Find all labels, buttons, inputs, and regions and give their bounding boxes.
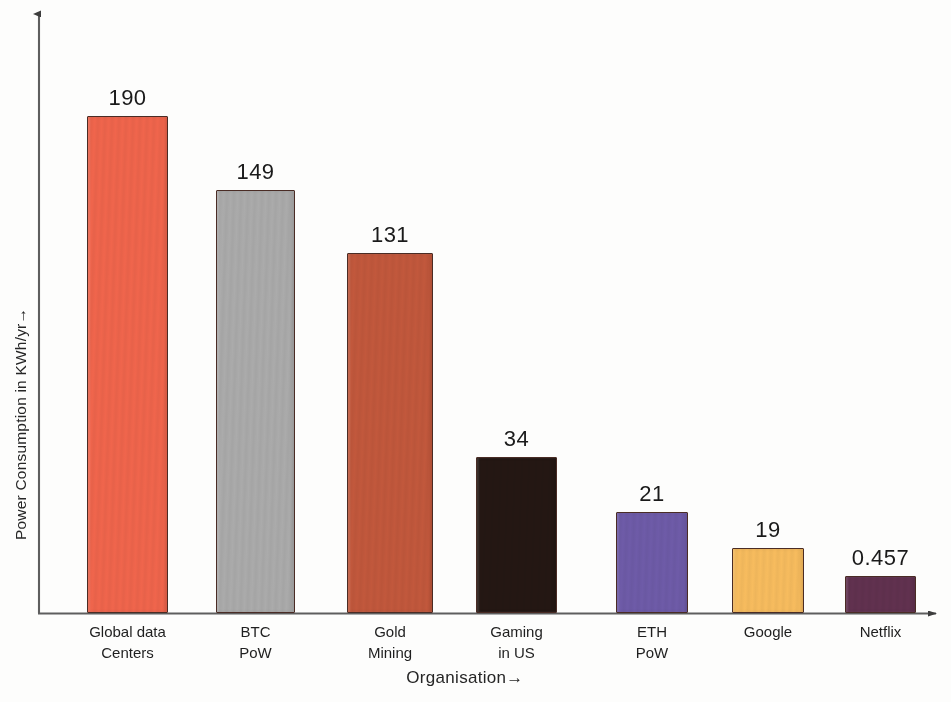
x-axis-tick-label-line1: ETH	[637, 623, 667, 640]
bar[interactable]	[347, 253, 433, 613]
x-axis-tick-label-line1: Google	[744, 623, 792, 640]
bar-value-label: 19	[732, 517, 804, 543]
x-axis-tick-label-line1: Gold	[374, 623, 406, 640]
x-axis-tick-label: Netflix	[860, 621, 902, 642]
bar[interactable]	[616, 512, 688, 613]
x-axis-tick-label-line1: Netflix	[860, 623, 902, 640]
bar-group: 34Gamingin US	[476, 457, 557, 613]
x-axis-tick-label-line1: Gaming	[490, 623, 543, 640]
bar[interactable]	[732, 548, 804, 613]
bar-chart: Power Consumption in KWh/yr→ 190Global d…	[0, 0, 951, 702]
x-axis-tick-label-line2: PoW	[239, 642, 272, 663]
bar-group: 21ETHPoW	[616, 512, 688, 613]
x-axis-tick-label: BTCPoW	[239, 621, 272, 663]
bar-value-label: 131	[347, 222, 433, 248]
x-axis-tick-label: ETHPoW	[636, 621, 669, 663]
bar-value-label: 149	[216, 159, 295, 185]
bar[interactable]	[216, 190, 295, 613]
bar[interactable]	[845, 576, 916, 613]
bar-value-label: 34	[476, 426, 557, 452]
bar-group: 19Google	[732, 548, 804, 613]
bar-value-label: 0.457	[845, 545, 916, 571]
bar-value-label: 190	[87, 85, 168, 111]
bar-group: 190Global dataCenters	[87, 116, 168, 613]
x-axis-tick-label-line2: Centers	[89, 642, 166, 663]
bar-value-label: 21	[616, 481, 688, 507]
x-axis-tick-label-line1: BTC	[240, 623, 270, 640]
x-axis-tick-label: GoldMining	[368, 621, 412, 663]
bar-group: 0.457Netflix	[845, 576, 916, 613]
x-axis-tick-label-line1: Global data	[89, 623, 166, 640]
x-axis-tick-label-line2: Mining	[368, 642, 412, 663]
x-axis-tick-label: Gamingin US	[490, 621, 543, 663]
bar[interactable]	[476, 457, 557, 613]
bar[interactable]	[87, 116, 168, 613]
bar-group: 149BTCPoW	[216, 190, 295, 613]
x-axis-tick-label: Global dataCenters	[89, 621, 166, 663]
x-axis-tick-label-line2: in US	[490, 642, 543, 663]
x-axis-title: Organisation→	[355, 668, 575, 688]
plot-area: 190Global dataCenters149BTCPoW131GoldMin…	[0, 0, 951, 702]
bar-group: 131GoldMining	[347, 253, 433, 613]
x-axis-tick-label-line2: PoW	[636, 642, 669, 663]
x-axis-tick-label: Google	[744, 621, 792, 642]
